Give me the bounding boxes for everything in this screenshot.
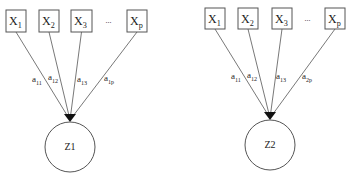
indicator-node: X1 (6, 10, 26, 32)
loading-label: a2p (302, 71, 312, 83)
loading-label: a13 (77, 74, 87, 86)
loading-edge (248, 29, 270, 118)
loading-label: a11 (231, 71, 241, 83)
loading-edge (49, 32, 70, 120)
loading-label: a13 (276, 71, 286, 83)
factor-label: Z2 (264, 139, 275, 150)
loading-label: a1p (104, 73, 114, 85)
factor-model-diagram: X1X2X3Xp...a11a12a13a1pZ1X1X2X3Xp...a11a… (0, 0, 354, 180)
indicator-node: X2 (238, 8, 258, 29)
loading-label: a12 (247, 70, 257, 82)
arrowhead-icon (64, 114, 76, 122)
loading-edge (16, 32, 70, 120)
indicator-node: X3 (71, 10, 92, 32)
indicator-node: X3 (272, 8, 292, 29)
indicator-node: X2 (39, 10, 59, 32)
ellipsis: ... (305, 14, 311, 23)
indicator-node: Xp (127, 10, 147, 32)
loading-label: a12 (48, 72, 58, 84)
ellipsis: ... (106, 16, 112, 25)
indicator-node: X1 (205, 8, 225, 29)
loading-edge (215, 29, 270, 118)
factor-Z2: X1X2X3Xp...a11a12a13a2pZ2 (205, 8, 345, 170)
arrowhead-icon (264, 112, 276, 120)
loading-label: a11 (32, 74, 42, 86)
factor-Z1: X1X2X3Xp...a11a12a13a1pZ1 (6, 10, 147, 172)
factor-label: Z1 (64, 141, 75, 152)
indicator-node: Xp (325, 8, 345, 29)
